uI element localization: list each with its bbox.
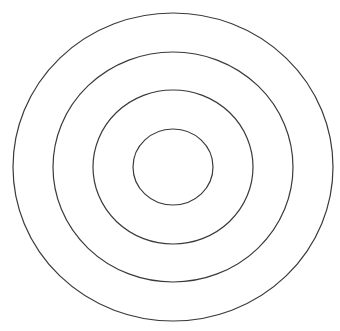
second-ring (53, 52, 293, 282)
third-ring (93, 90, 253, 244)
inner-ring (133, 129, 213, 205)
outer-ring (13, 13, 333, 321)
concentric-circles-diagram (0, 0, 340, 331)
